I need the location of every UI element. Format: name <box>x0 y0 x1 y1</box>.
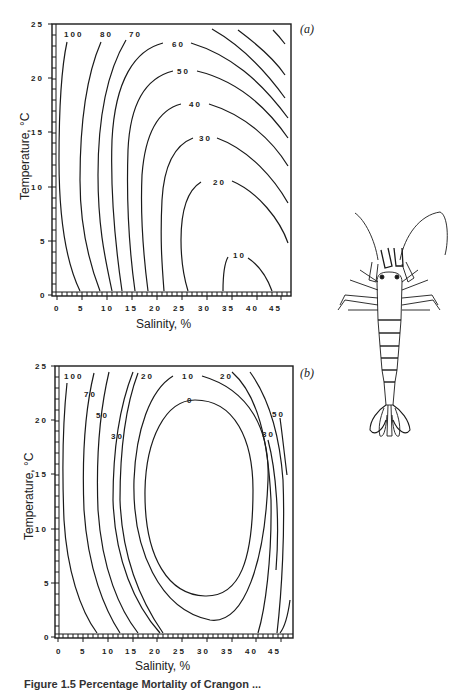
svg-text:25: 25 <box>35 362 48 371</box>
plot-b-x-tick-labels: 0 5 10 15 20 25 30 35 40 45 <box>56 647 281 656</box>
svg-text:40: 40 <box>189 100 202 109</box>
plot-a-y-axis-title: Temperature, °C <box>18 112 32 200</box>
svg-text:0: 0 <box>187 396 193 405</box>
svg-text:10: 10 <box>233 251 246 260</box>
svg-text:50: 50 <box>272 410 285 419</box>
plot-a-y-tick-labels: 25 20 15 10 5 0 <box>31 20 46 300</box>
plot-b-y-axis-title: Temperature, °C <box>22 452 36 540</box>
svg-text:15: 15 <box>125 304 138 313</box>
svg-text:15: 15 <box>35 470 48 479</box>
contour-a-10 <box>223 257 228 291</box>
svg-text:5: 5 <box>40 237 46 246</box>
contour-a-right-3 <box>273 30 285 44</box>
shrimp-illustration-icon <box>338 212 447 436</box>
contour-b-right-bottom <box>280 600 290 633</box>
contour-a-60 <box>112 43 163 291</box>
svg-text:0: 0 <box>56 647 62 656</box>
contour-a-100 <box>59 42 80 291</box>
svg-text:25: 25 <box>173 304 186 313</box>
svg-text:0: 0 <box>40 291 46 300</box>
svg-text:20: 20 <box>31 74 44 83</box>
plot-a-x-axis-title: Salinity, % <box>136 317 191 331</box>
svg-text:50: 50 <box>177 67 190 76</box>
contour-b-0 <box>145 400 253 596</box>
svg-text:60: 60 <box>172 40 185 49</box>
svg-text:30: 30 <box>111 432 124 441</box>
svg-text:25: 25 <box>173 647 186 656</box>
svg-text:80: 80 <box>100 30 113 39</box>
plot-a-contour-labels: 100 80 70 60 50 40 30 20 10 <box>64 30 246 260</box>
contour-b-10 <box>134 376 268 620</box>
plot-a-frame <box>52 24 291 296</box>
svg-text:20: 20 <box>220 372 233 381</box>
contour-b-100 <box>63 383 97 633</box>
svg-text:5: 5 <box>44 579 50 588</box>
plot-a-x-tick-labels: 0 5 10 15 20 25 30 35 40 45 <box>54 304 282 313</box>
svg-text:0: 0 <box>54 304 60 313</box>
svg-text:30: 30 <box>198 304 211 313</box>
contour-b-50-right <box>280 418 287 475</box>
svg-text:30: 30 <box>197 647 210 656</box>
panel-b-label: (b) <box>300 366 314 380</box>
svg-text:25: 25 <box>31 20 44 29</box>
svg-text:45: 45 <box>268 647 281 656</box>
panel-a: 25 20 15 10 5 0 0 5 10 15 20 25 30 35 40… <box>18 20 314 331</box>
plot-b-y-tick-labels: 25 20 15 10 5 0 <box>35 362 50 642</box>
figure-caption: Figure 1.5 Percentage Mortality of Crang… <box>24 678 261 690</box>
contour-a-30 <box>161 138 193 291</box>
svg-text:20: 20 <box>141 372 154 381</box>
svg-text:20: 20 <box>213 178 226 187</box>
svg-text:10: 10 <box>101 304 114 313</box>
svg-text:15: 15 <box>31 128 44 137</box>
panel-b: 25 20 15 10 5 0 0 5 10 15 20 25 30 35 40… <box>22 362 314 673</box>
svg-text:30: 30 <box>262 430 275 439</box>
svg-text:10: 10 <box>102 647 115 656</box>
svg-text:20: 20 <box>149 304 162 313</box>
svg-text:15: 15 <box>125 647 138 656</box>
svg-text:10: 10 <box>182 372 195 381</box>
svg-text:35: 35 <box>222 304 235 313</box>
svg-text:100: 100 <box>64 30 83 39</box>
svg-text:100: 100 <box>64 372 83 381</box>
svg-text:5: 5 <box>80 647 86 656</box>
svg-text:10: 10 <box>35 525 48 534</box>
plot-a-contours <box>59 29 288 291</box>
contour-a-10-right <box>248 258 272 291</box>
svg-text:50: 50 <box>96 411 109 420</box>
svg-text:30: 30 <box>199 134 212 143</box>
svg-text:20: 20 <box>35 416 48 425</box>
svg-text:70: 70 <box>84 390 97 399</box>
contour-a-60-right <box>191 43 288 118</box>
contour-b-20 <box>120 373 163 633</box>
svg-text:70: 70 <box>129 30 142 39</box>
svg-text:45: 45 <box>269 304 282 313</box>
contour-a-50 <box>127 71 173 291</box>
svg-text:35: 35 <box>221 647 234 656</box>
plot-b-x-axis-title: Salinity, % <box>135 659 190 673</box>
panel-a-label: (a) <box>300 22 314 36</box>
svg-text:40: 40 <box>245 647 258 656</box>
contour-a-20 <box>181 182 201 291</box>
svg-text:0: 0 <box>44 633 50 642</box>
contour-a-right-1 <box>212 29 285 98</box>
svg-text:10: 10 <box>31 183 44 192</box>
svg-text:40: 40 <box>246 304 259 313</box>
contour-a-40 <box>141 104 181 291</box>
svg-text:20: 20 <box>149 647 162 656</box>
svg-text:5: 5 <box>78 304 84 313</box>
